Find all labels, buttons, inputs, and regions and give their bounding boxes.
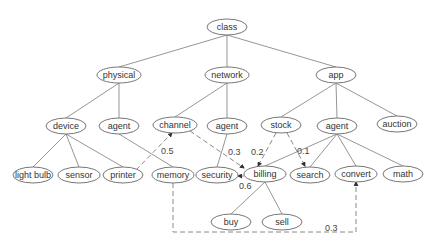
node-label: convert [341, 169, 371, 179]
node-sell[interactable]: sell [262, 214, 302, 230]
node-channel[interactable]: channel [153, 117, 197, 133]
hierarchy-diagram: 0.50.30.20.10.60.3 classphysicalnetworka… [0, 0, 431, 246]
node-memory[interactable]: memory [152, 167, 194, 183]
node-agent2[interactable]: agent [207, 118, 247, 134]
node-label: agent [216, 121, 239, 131]
node-label: billing [253, 169, 276, 179]
node-agent1[interactable]: agent [99, 118, 139, 134]
node-lightbulb[interactable]: light bulb [13, 167, 53, 183]
node-security[interactable]: security [196, 167, 238, 183]
node-label: agent [108, 121, 131, 131]
node-label: search [296, 170, 323, 180]
node-label: stock [270, 120, 292, 130]
edge-physical-device [66, 83, 119, 118]
node-label: auction [382, 119, 411, 129]
edge-app-agent3 [336, 83, 337, 118]
edge-class-physical [119, 35, 227, 67]
edge-agent3-search [310, 134, 337, 167]
node-label: security [201, 170, 233, 180]
node-convert[interactable]: convert [335, 166, 377, 182]
node-label: physical [103, 70, 136, 80]
node-buy[interactable]: buy [211, 214, 251, 230]
node-math[interactable]: math [383, 166, 423, 182]
node-label: device [53, 121, 79, 131]
node-label: network [211, 70, 243, 80]
node-label: app [328, 70, 343, 80]
node-billing[interactable]: billing [244, 166, 286, 182]
node-network[interactable]: network [205, 67, 249, 83]
node-device[interactable]: device [46, 118, 86, 134]
edge-network-channel [175, 83, 227, 117]
node-auction[interactable]: auction [377, 116, 417, 132]
node-label: memory [157, 170, 190, 180]
weight-label: 0.1 [297, 146, 310, 156]
node-sensor[interactable]: sensor [58, 167, 100, 183]
weight-label: 0.3 [228, 147, 241, 157]
node-printer[interactable]: printer [103, 167, 143, 183]
edge-device-printer [66, 134, 123, 167]
node-label: sensor [65, 170, 92, 180]
node-agent3[interactable]: agent [317, 118, 357, 134]
node-label: printer [110, 170, 136, 180]
edge-class-app [227, 35, 336, 67]
node-label: channel [159, 120, 191, 130]
node-physical[interactable]: physical [97, 67, 141, 83]
node-stock[interactable]: stock [261, 117, 301, 133]
edge-app-auction [336, 83, 397, 116]
edge-app-stock [281, 83, 336, 117]
weight-label: 0.3 [325, 223, 338, 233]
weight-label: 0.6 [239, 181, 252, 191]
node-class[interactable]: class [207, 19, 247, 35]
edge-device-lightbulb [33, 134, 66, 167]
node-label: math [393, 169, 413, 179]
weight-label: 0.5 [161, 146, 174, 156]
node-search[interactable]: search [290, 167, 330, 183]
edge-device-sensor [66, 134, 79, 167]
node-label: sell [275, 217, 289, 227]
edge-billing-sell [265, 182, 282, 214]
node-label: class [217, 22, 238, 32]
tree-nodes: classphysicalnetworkappdeviceagentchanne… [13, 19, 423, 230]
node-label: buy [224, 217, 239, 227]
weight-label: 0.2 [251, 147, 264, 157]
node-app[interactable]: app [316, 67, 356, 83]
node-label: agent [326, 121, 349, 131]
node-label: light bulb [15, 170, 51, 180]
